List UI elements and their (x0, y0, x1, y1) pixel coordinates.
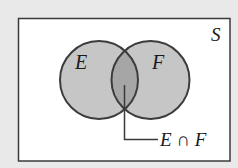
set-f-label: F (151, 51, 165, 73)
universe-label: S (211, 24, 221, 45)
intersection-label: E ∩ F (159, 129, 207, 150)
venn-diagram: S E F E ∩ F (0, 0, 238, 168)
set-e-label: E (74, 51, 87, 73)
